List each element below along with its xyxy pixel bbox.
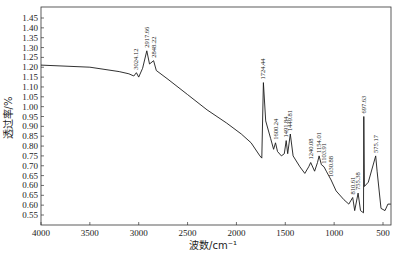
y-tick-label: 1.20	[22, 62, 38, 72]
x-tick-label: 3000	[130, 228, 149, 238]
y-tick-label: 0.70	[22, 161, 38, 171]
x-tick-label: 2500	[179, 228, 198, 238]
peak-label: 1724.44	[259, 58, 266, 80]
peak-label: 1449.81	[286, 110, 293, 131]
y-tick-label: 0.95	[22, 112, 38, 122]
peak-label: 575.17	[372, 134, 379, 153]
peak-label: 1240.08	[307, 138, 314, 159]
y-tick-label: 1.30	[22, 43, 38, 53]
peak-label: 697.63	[360, 96, 367, 114]
peak-label: 755.38	[354, 172, 361, 190]
peak-labels: 3024.122917.662848.221724.441600.241491.…	[132, 26, 378, 195]
x-axis-title: 波数/cm⁻¹	[189, 239, 237, 251]
y-tick-label: 1.35	[22, 33, 38, 43]
x-axis-ticks: 4000350030002500200015001000500	[32, 222, 390, 238]
y-axis-title: 透过率/%	[2, 97, 14, 140]
peak-label: 1600.24	[272, 118, 279, 140]
y-tick-label: 1.05	[22, 92, 38, 102]
x-tick-label: 1000	[325, 228, 344, 238]
y-tick-label: 1.25	[22, 52, 38, 62]
y-tick-label: 0.65	[22, 190, 38, 200]
y-tick-label: 0.55	[22, 210, 38, 220]
y-tick-label: 1.15	[22, 72, 38, 82]
peak-label: 3024.12	[132, 49, 139, 70]
y-tick-label: 1.40	[22, 23, 38, 33]
y-tick-label: 1.10	[22, 82, 38, 92]
y-tick-label: 0.75	[22, 151, 38, 161]
x-tick-label: 3500	[81, 228, 100, 238]
y-tick-label: 0.80	[22, 141, 38, 151]
y-tick-label: 0.85	[22, 131, 38, 141]
y-tick-label: 1.45	[22, 13, 38, 23]
peak-label: 1103.91	[320, 143, 327, 164]
x-tick-label: 1500	[276, 228, 295, 238]
y-tick-label: 1.00	[22, 102, 38, 112]
y-tick-label: 0.90	[22, 121, 38, 131]
x-tick-label: 500	[376, 228, 390, 238]
peak-label: 2848.22	[150, 37, 157, 58]
y-tick-label: 0.65	[22, 171, 38, 181]
y-tick-label: 0.60	[22, 200, 38, 210]
spectrum-line	[41, 51, 391, 213]
y-tick-label: 0.60	[22, 180, 38, 190]
peak-label: 1030.88	[327, 156, 334, 177]
x-tick-label: 2000	[227, 228, 246, 238]
x-tick-label: 4000	[32, 228, 51, 238]
ftir-chart: 1.451.401.351.301.251.201.151.101.051.00…	[0, 0, 401, 256]
